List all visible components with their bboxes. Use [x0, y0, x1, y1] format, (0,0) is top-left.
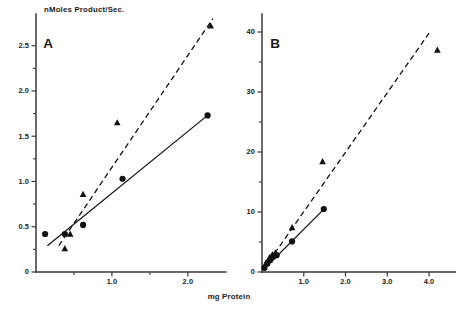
- fit-line-triangles-b: [264, 33, 429, 268]
- y-tick-label-b-4: 20: [247, 147, 255, 156]
- data-point-triangle-a-0: [62, 245, 69, 251]
- x-tick-label-b-2: 3.0: [382, 277, 393, 286]
- y-tick-label-a-4: 1.0: [18, 177, 29, 186]
- data-point-circle-a-2: [80, 222, 86, 228]
- x-tick-label-a-1: 1.0: [107, 277, 118, 286]
- panel-b: 0102030401.02.03.04.0B: [247, 14, 456, 286]
- x-axis-title: mg Protein: [208, 292, 251, 301]
- y-axis-title: nMoles Product/Sec.: [44, 5, 125, 14]
- data-point-triangle-a-3: [114, 119, 121, 125]
- y-tick-label-a-8: 2.0: [18, 86, 29, 95]
- data-point-triangle-b-6: [434, 47, 441, 53]
- panel-letter-a: A: [43, 36, 53, 51]
- y-tick-label-b-8: 40: [247, 27, 255, 36]
- data-point-triangle-b-5: [319, 158, 326, 164]
- y-tick-label-b-6: 30: [247, 87, 255, 96]
- y-tick-label-b-2: 10: [247, 207, 255, 216]
- data-point-circle-a-4: [204, 112, 210, 118]
- data-point-circle-b-5: [289, 238, 295, 244]
- panel-letter-b: B: [270, 36, 280, 51]
- y-tick-label-a-10: 2.5: [18, 41, 29, 50]
- x-tick-label-a-3: 2.0: [183, 277, 194, 286]
- scientific-figure: 00.51.01.52.02.51.02.0A 0102030401.02.03…: [0, 0, 456, 310]
- fit-line-triangles-a: [59, 19, 213, 246]
- data-point-triangle-b-4: [289, 224, 296, 230]
- data-point-triangle-a-2: [80, 191, 87, 197]
- x-tick-label-b-1: 2.0: [340, 277, 351, 286]
- data-point-circle-a-0: [42, 231, 48, 237]
- figure-container: 00.51.01.52.02.51.02.0A 0102030401.02.03…: [0, 0, 456, 310]
- data-point-circle-a-3: [119, 176, 125, 182]
- y-tick-label-a-0: 0: [25, 267, 29, 276]
- x-tick-label-b-0: 1.0: [298, 277, 309, 286]
- y-tick-label-a-2: 0.5: [18, 222, 29, 231]
- panel-a: 00.51.01.52.02.51.02.0A: [18, 14, 226, 286]
- x-tick-label-b-3: 4.0: [424, 277, 435, 286]
- y-tick-label-b-0: 0: [251, 267, 255, 276]
- y-tick-label-a-6: 1.5: [18, 132, 29, 141]
- shared-axis-labels: nMoles Product/Sec.mg Protein: [44, 5, 250, 301]
- data-point-circle-b-6: [321, 206, 327, 212]
- data-point-circle-a-1: [62, 231, 68, 237]
